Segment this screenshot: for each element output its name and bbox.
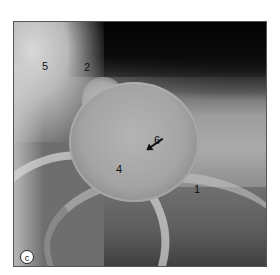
scapular-neck-arc: [44, 172, 267, 267]
humeral-head: [69, 82, 199, 202]
scapula-edge: [13, 62, 44, 267]
label-4: 4: [116, 164, 122, 175]
label-1: 1: [194, 184, 200, 195]
glenoid-arc: [13, 124, 196, 267]
acromion-region: [13, 21, 104, 142]
label-5: 5: [42, 61, 48, 72]
label-2: 2: [84, 62, 90, 73]
coracoid-region: [82, 77, 124, 127]
background-dark-region: [69, 22, 267, 77]
panel-label-badge: c: [20, 250, 34, 264]
lower-soft-tissue: [104, 192, 267, 267]
xray-image: 5 2 6 4 1 c: [13, 21, 267, 267]
soft-tissue-dark-region: [64, 21, 267, 102]
